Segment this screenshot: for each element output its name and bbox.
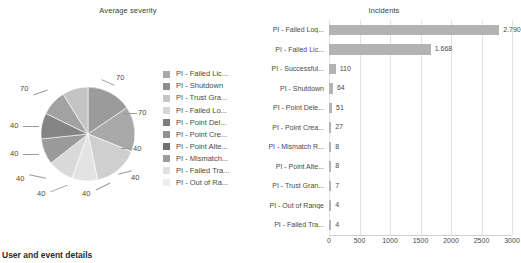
legend-item-label: PI - Point Alte...: [176, 143, 228, 151]
average-severity-chart-panel: Average severity 70 70 70 40 40 40 40 40…: [0, 0, 256, 240]
legend-item-label: PI - Shutdown: [176, 82, 223, 90]
bar-value-label: 2.790: [503, 26, 521, 33]
bar-track: 2.790: [329, 20, 512, 40]
bar-chart-plot-area: PI - Failed Log...2.790PI - Failed Lic..…: [256, 20, 512, 235]
bar-value-label: 64: [337, 84, 345, 91]
legend-item[interactable]: PI - Failed Lic...: [163, 68, 229, 80]
gridline: [512, 20, 513, 235]
bar-row[interactable]: PI - Shutdown64: [256, 79, 512, 99]
legend-color-swatch: [163, 131, 170, 138]
bar-category-label: PI - Shutdown: [256, 85, 329, 92]
legend-color-swatch: [163, 155, 170, 162]
pie-slice-label: 40: [16, 174, 24, 183]
bar-category-label: PI - Mismatch R...: [256, 143, 329, 150]
pie-slice-label: 70: [116, 73, 124, 82]
pie-slices-svg: [40, 86, 136, 182]
legend-item[interactable]: PI - Out of Ra...: [163, 177, 229, 189]
x-axis-tick-label: 1000: [382, 237, 398, 244]
legend-item[interactable]: PI - Point Cre...: [163, 128, 229, 140]
bar-row[interactable]: PI - Mismatch R...8: [256, 137, 512, 157]
bar-category-label: PI - Failed Tra...: [256, 221, 329, 228]
legend-item-label: PI - Failed Lo...: [176, 107, 227, 115]
pie-chart-legend: PI - Failed Lic...PI - ShutdownPI - Trus…: [163, 68, 229, 189]
pie-slice-label: 40: [82, 189, 90, 198]
bar-row[interactable]: PI - Failed Lic...1.668: [256, 40, 512, 60]
bar-category-label: PI - Point Crea...: [256, 124, 329, 131]
bar-value-label: 8: [335, 143, 339, 150]
pie-leader-line: [50, 185, 67, 193]
pie-slice-extra-label: 40: [133, 144, 141, 153]
bar-row[interactable]: PI - Failed Log...2.790: [256, 20, 512, 40]
legend-color-swatch: [163, 143, 170, 150]
pie-chart-title: Average severity: [0, 6, 256, 15]
bar-fill: [329, 200, 331, 211]
section-heading: User and event details: [2, 250, 92, 260]
legend-item[interactable]: PI - Point Del...: [163, 116, 229, 128]
bar-fill: [329, 83, 333, 94]
bar-fill: [329, 181, 331, 192]
bar-track: 4: [329, 196, 512, 216]
bar-row[interactable]: PI - Trust Gran...7: [256, 176, 512, 196]
legend-item[interactable]: PI - Point Alte...: [163, 141, 229, 153]
bar-fill: [329, 103, 332, 114]
legend-color-swatch: [163, 167, 170, 174]
bar-row[interactable]: PI - Point Alte...8: [256, 157, 512, 177]
bar-category-label: PI - Failed Lic...: [256, 46, 329, 53]
bar-category-label: PI - Failed Log...: [256, 26, 329, 33]
legend-item[interactable]: PI - Mismatch...: [163, 153, 229, 165]
legend-item-label: PI - Trust Gra...: [176, 94, 227, 102]
bar-value-label: 7: [335, 182, 339, 189]
incidents-chart-panel: Incidents PI - Failed Log...2.790PI - Fa…: [256, 0, 512, 263]
bar-row[interactable]: PI - Point Dele...51: [256, 98, 512, 118]
bar-value-label: 4: [335, 221, 339, 228]
pie-chart-graphic: [40, 86, 136, 182]
x-axis-tick-label: 500: [354, 237, 366, 244]
bar-category-label: PI - Point Dele...: [256, 104, 329, 111]
x-axis-tick-label: 0: [327, 237, 331, 244]
bar-row[interactable]: PI - Successful...110: [256, 59, 512, 79]
legend-item[interactable]: PI - Failed Tra...: [163, 165, 229, 177]
pie-leader-line: [23, 126, 39, 127]
pie-slice-label: 70: [20, 84, 28, 93]
pie-leader-line: [23, 154, 39, 155]
bar-track: 110: [329, 59, 512, 79]
legend-item-label: PI - Mismatch...: [176, 155, 228, 163]
x-axis-tick-label: 2500: [474, 237, 490, 244]
legend-color-swatch: [163, 107, 170, 114]
bar-value-label: 8: [335, 162, 339, 169]
legend-item[interactable]: PI - Trust Gra...: [163, 92, 229, 104]
bar-fill: [329, 44, 431, 55]
legend-color-swatch: [163, 71, 170, 78]
bar-value-label: 27: [335, 123, 343, 130]
bar-value-label: 51: [336, 104, 344, 111]
bar-chart-x-axis: [329, 235, 512, 236]
bar-track: 8: [329, 157, 512, 177]
bar-fill: [329, 220, 331, 231]
bar-value-label: 4: [335, 201, 339, 208]
legend-item-label: PI - Point Del...: [176, 119, 226, 127]
legend-color-swatch: [163, 95, 170, 102]
legend-color-swatch: [163, 179, 170, 186]
bar-fill: [329, 142, 331, 153]
legend-item-label: PI - Out of Ra...: [176, 179, 228, 187]
legend-color-swatch: [163, 119, 170, 126]
bar-row[interactable]: PI - Point Crea...27: [256, 118, 512, 138]
pie-leader-line: [96, 183, 111, 191]
legend-item-label: PI - Point Cre...: [176, 131, 227, 139]
bar-chart-x-tick-labels: 050010001500200025003000: [329, 237, 512, 251]
bar-fill: [329, 122, 331, 133]
x-axis-tick-label: 1500: [413, 237, 429, 244]
legend-item[interactable]: PI - Failed Lo...: [163, 104, 229, 116]
bar-row[interactable]: PI - Failed Tra...4: [256, 215, 512, 235]
legend-item-label: PI - Failed Tra...: [176, 167, 229, 175]
pie-leader-line: [101, 79, 114, 86]
pie-slice-label: 40: [10, 121, 18, 130]
pie-leader-line: [124, 113, 137, 114]
bar-row[interactable]: PI - Out of Range4: [256, 196, 512, 216]
bar-category-label: PI - Point Alte...: [256, 163, 329, 170]
bar-category-label: PI - Successful...: [256, 65, 329, 72]
legend-item[interactable]: PI - Shutdown: [163, 80, 229, 92]
pie-leader-line: [121, 148, 132, 149]
bar-track: 51: [329, 98, 512, 118]
bar-category-label: PI - Out of Range: [256, 202, 329, 209]
